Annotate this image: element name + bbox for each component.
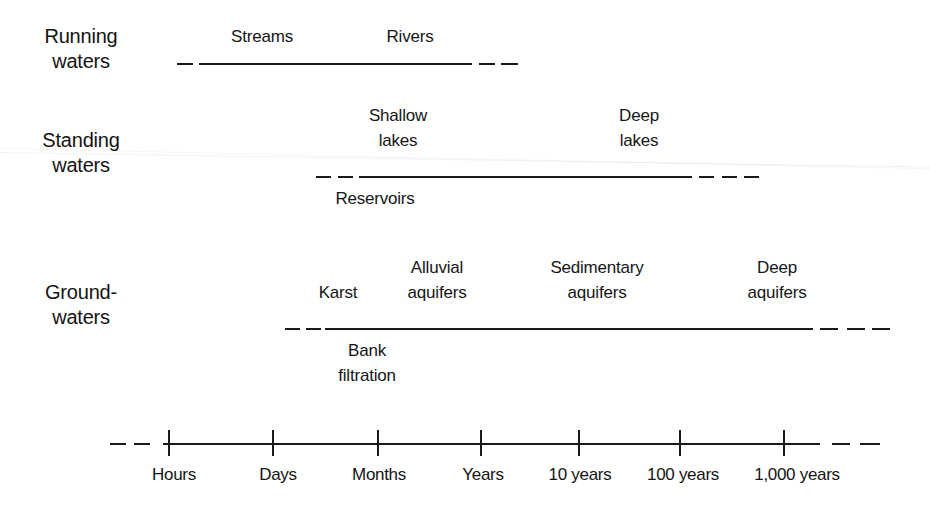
- axis-lead-dash-2: [134, 443, 150, 445]
- item-label-reservoirs: Reservoirs: [295, 186, 455, 211]
- item-label-rivers: Rivers: [345, 24, 475, 49]
- row-label-ground-waters: Ground- waters: [16, 280, 146, 330]
- item-label-streams: Streams: [197, 24, 327, 49]
- item-label-shallow-lakes: Shallow lakes: [333, 103, 463, 153]
- running-waters-range-line: [213, 63, 472, 65]
- axis-line: [163, 443, 820, 445]
- item-label-alluvial-aquifers: Alluvial aquifers: [367, 255, 507, 305]
- tick-mark-10-years: [578, 430, 580, 456]
- ground-waters-trail-dash-3: [872, 328, 890, 330]
- tick-label-hours: Hours: [152, 465, 196, 485]
- running-waters-lead-dash-1: [177, 63, 193, 65]
- tick-mark-years: [480, 430, 482, 456]
- ground-waters-trail-dash-1: [820, 328, 838, 330]
- item-label-sedimentary-aquifers: Sedimentary aquifers: [512, 255, 682, 305]
- standing-waters-trail-dash-3: [744, 176, 759, 178]
- tick-mark-months: [377, 430, 379, 456]
- running-waters-trail-dash-1: [479, 63, 495, 65]
- tick-mark-1000-years: [783, 430, 785, 456]
- axis-lead-dash-1: [110, 443, 126, 445]
- tick-label-1000-years: 1,000 years: [754, 465, 840, 485]
- standing-waters-trail-dash-1: [699, 176, 714, 178]
- axis-trail-dash-1: [832, 443, 850, 445]
- ground-waters-range-line: [325, 328, 813, 330]
- item-label-deep-aquifers: Deep aquifers: [707, 255, 847, 305]
- tick-mark-days: [272, 430, 274, 456]
- tick-label-10-years: 10 years: [549, 465, 612, 485]
- ground-waters-trail-dash-2: [847, 328, 865, 330]
- row-label-standing-waters: Standing waters: [16, 128, 146, 178]
- tick-label-months: Months: [352, 465, 406, 485]
- standing-waters-lead-dash-1: [316, 176, 331, 178]
- running-waters-trail-dash-2: [501, 63, 518, 65]
- item-label-bank-filtration: Bank filtration: [297, 338, 437, 388]
- tick-label-100-years: 100 years: [647, 465, 719, 485]
- tick-mark-100-years: [679, 430, 681, 456]
- tick-mark-hours: [168, 430, 170, 456]
- ground-waters-lead-dash-2: [306, 328, 321, 330]
- axis-trail-dash-2: [860, 443, 880, 445]
- standing-waters-trail-dash-2: [722, 176, 737, 178]
- row-label-running-waters: Running waters: [16, 24, 146, 74]
- tick-label-years: Years: [462, 465, 503, 485]
- tick-label-days: Days: [259, 465, 297, 485]
- running-waters-lead-dash-2: [199, 63, 213, 65]
- standing-waters-range-line: [359, 176, 692, 178]
- item-label-deep-lakes: Deep lakes: [574, 103, 704, 153]
- standing-waters-lead-dash-2: [338, 176, 353, 178]
- ground-waters-lead-dash-1: [285, 328, 300, 330]
